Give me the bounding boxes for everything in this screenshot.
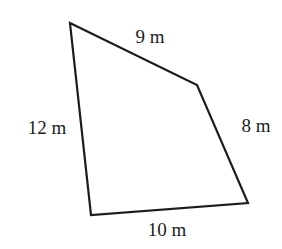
side-label-bottom: 10 m bbox=[148, 220, 187, 239]
quadrilateral-figure: 9 m 8 m 10 m 12 m bbox=[0, 0, 282, 249]
quadrilateral-outline bbox=[70, 23, 248, 215]
side-label-top: 9 m bbox=[135, 27, 164, 46]
side-label-right: 8 m bbox=[241, 116, 270, 135]
side-label-left: 12 m bbox=[28, 118, 67, 137]
